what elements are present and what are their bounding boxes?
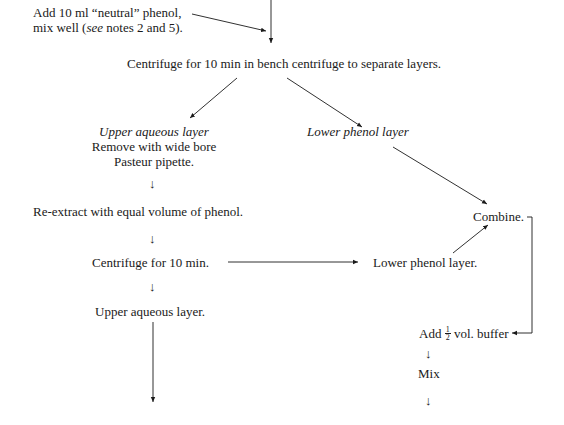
- arrow-down-icon: ↓: [149, 279, 156, 294]
- step-lower-phenol-1: Lower phenol layer: [307, 124, 409, 139]
- arrow-down-icon: ↓: [425, 346, 432, 361]
- step-centrifuge-1: Centrifuge for 10 min in bench centrifug…: [127, 56, 441, 71]
- step-add-buffer: Add 12 vol. buffer: [419, 326, 509, 341]
- step-mix: Mix: [418, 366, 440, 381]
- step-centrifuge-2: Centrifuge for 10 min.: [92, 255, 209, 270]
- arrow-down-icon: ↓: [425, 393, 432, 408]
- step-add-phenol-line2: mix well (see notes 2 and 5).: [33, 20, 183, 35]
- arrow-down-icon: ↓: [149, 176, 156, 191]
- step-add-phenol-line1: Add 10 ml “neutral” phenol,: [33, 5, 183, 20]
- step-upper-aqueous-2: Upper aqueous layer.: [95, 304, 205, 319]
- step-upper-aqueous-1: Upper aqueous layer Remove with wide bor…: [84, 124, 224, 169]
- step-lower-phenol-2: Lower phenol layer.: [373, 255, 477, 270]
- arrow-down-icon: ↓: [149, 231, 156, 246]
- upper-aqueous-line1: Remove with wide bore: [84, 139, 224, 154]
- step-add-phenol: Add 10 ml “neutral” phenol, mix well (se…: [33, 5, 183, 35]
- step-reextract: Re-extract with equal volume of phenol.: [33, 204, 243, 219]
- upper-aqueous-title: Upper aqueous layer: [84, 124, 224, 139]
- upper-aqueous-line2: Pasteur pipette.: [84, 154, 224, 169]
- step-combine: Combine.: [473, 209, 524, 224]
